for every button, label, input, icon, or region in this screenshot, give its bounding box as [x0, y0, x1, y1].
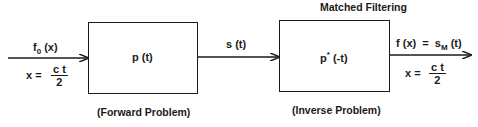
- intermediate-signal-label: s (t): [226, 38, 246, 50]
- forward-block-label: p (t): [132, 51, 153, 63]
- forward-problem-caption: (Forward Problem): [97, 106, 190, 118]
- signal-flow-arrows: [0, 0, 478, 127]
- input-relation-lhs: x =: [26, 69, 42, 81]
- diagram-title: Matched Filtering: [320, 1, 407, 13]
- matched-filter-label: p* (-t): [320, 50, 348, 64]
- output-relation-lhs: x =: [405, 67, 421, 79]
- input-signal-label: f0 (x): [33, 41, 58, 56]
- forward-block: p (t): [88, 22, 198, 94]
- output-signal-label: f (x) = sM (t): [396, 37, 462, 52]
- output-relation-fraction: c t 2: [429, 61, 446, 86]
- matched-filter-block: p* (-t): [279, 20, 390, 92]
- inverse-problem-caption: (Inverse Problem): [292, 104, 381, 116]
- input-relation-fraction: c t 2: [51, 63, 68, 88]
